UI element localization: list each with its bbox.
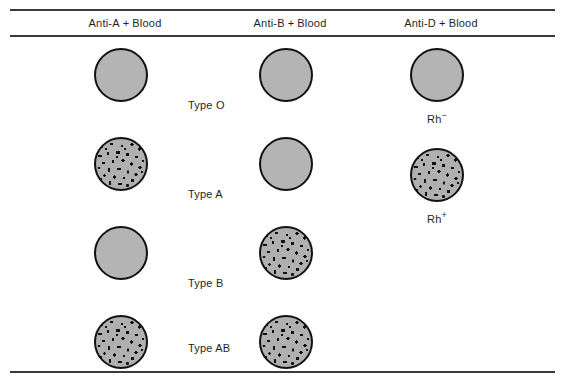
plus-sign: + [439, 17, 446, 29]
type-label-o: Type O [188, 99, 225, 111]
rh-negative-sign: − [442, 110, 447, 120]
well-anti-a-type-ab [94, 315, 148, 369]
rh-positive-sign: + [442, 210, 447, 220]
column-header-anti-a: Anti-A+Blood [45, 17, 205, 29]
rh-positive-label: Rh+ [397, 213, 477, 225]
well-anti-b-type-a [259, 137, 313, 191]
type-label-ab: Type AB [188, 342, 230, 354]
column-header-anti-b-sample: Blood [297, 17, 326, 29]
well-anti-a-type-a [94, 137, 148, 191]
column-header-anti-a-sample: Blood [132, 17, 161, 29]
rh-negative-base: Rh [427, 113, 441, 125]
column-header-anti-a-antibody: Anti-A [89, 17, 120, 29]
well-anti-a-type-o [94, 48, 148, 102]
rh-negative-label: Rh− [397, 113, 477, 125]
well-anti-d-rh-positive [410, 148, 464, 202]
well-anti-b-type-o [259, 48, 313, 102]
column-header-anti-b: Anti-B+Blood [210, 17, 370, 29]
plus-sign: + [123, 17, 130, 29]
well-anti-a-type-b [94, 226, 148, 280]
plus-sign: + [288, 17, 295, 29]
blood-typing-figure: Anti-A+Blood Anti-B+Blood Anti-D+Blood T… [0, 0, 567, 386]
well-anti-d-rh-negative [410, 48, 464, 102]
column-header-anti-d-antibody: Anti-D [404, 17, 436, 29]
well-anti-b-type-ab [259, 315, 313, 369]
column-header-anti-d: Anti-D+Blood [361, 17, 521, 29]
well-anti-b-type-b [259, 226, 313, 280]
rh-positive-base: Rh [427, 213, 441, 225]
column-header-anti-b-antibody: Anti-B [254, 17, 285, 29]
type-label-b: Type B [188, 277, 223, 289]
type-label-a: Type A [188, 188, 223, 200]
header-rule [10, 35, 555, 37]
bottom-rule [10, 371, 555, 373]
column-header-anti-d-sample: Blood [449, 17, 478, 29]
top-rule [10, 9, 555, 11]
